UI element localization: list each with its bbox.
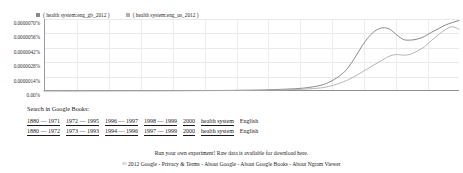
search-table-row: 1880 — 19721973 — 19931994 — 19961997 — … xyxy=(27,127,258,136)
date-range-cell[interactable]: 1996 — 1997 xyxy=(105,117,138,126)
date-range-link[interactable]: 1880 — 1972 xyxy=(27,127,60,136)
search-table-body: 1880 — 19711972 — 19951996 — 19971998 — … xyxy=(27,117,258,136)
date-range-link[interactable]: 1996 — 1997 xyxy=(105,117,138,126)
ngram-chart[interactable] xyxy=(44,19,459,91)
copyright-line: © 2012 Google - Privacy & Terms - About … xyxy=(0,160,463,168)
legend-swatch-icon xyxy=(36,13,40,17)
copyright-text: © 2012 Google - Privacy & Terms - About … xyxy=(122,161,340,167)
date-range-cell[interactable]: 1880 — 1972 xyxy=(27,127,60,136)
query-link[interactable]: health system xyxy=(201,127,234,136)
y-tick-label: 0.0000042% xyxy=(14,49,40,55)
query-link[interactable]: health system xyxy=(201,117,234,126)
y-tick-label: 0.0000056% xyxy=(14,34,40,40)
language-cell: English xyxy=(240,127,258,136)
query-cell[interactable]: health system xyxy=(201,127,234,136)
date-range-cell[interactable]: 2000 xyxy=(183,117,195,126)
chart-line-series-0 xyxy=(44,21,459,91)
date-range-cell[interactable]: 1972 — 1995 xyxy=(66,117,99,126)
experiment-link[interactable]: Run your own experiment! Raw data is ava… xyxy=(155,150,308,156)
search-table-row: 1880 — 19711972 — 19951996 — 19971998 — … xyxy=(27,117,258,126)
date-range-cell[interactable]: 1994 — 1996 xyxy=(105,127,138,136)
y-axis: 0.0000070%0.0000056%0.0000042%0.0000028%… xyxy=(0,19,42,93)
search-in-google-books-section: Search in Google Books: 1880 — 19711972 … xyxy=(27,104,327,137)
date-range-link[interactable]: 1994 — 1996 xyxy=(105,127,138,136)
date-range-cell[interactable]: 2000 xyxy=(183,127,195,136)
query-cell[interactable]: health system xyxy=(201,117,234,126)
date-range-cell[interactable]: 1998 — 1999 xyxy=(144,117,177,126)
date-range-link[interactable]: 1998 — 1999 xyxy=(144,117,177,126)
chart-line-series-1 xyxy=(44,27,459,91)
date-range-link[interactable]: 1997 — 1999 xyxy=(144,127,177,136)
date-range-cell[interactable]: 1880 — 1971 xyxy=(27,117,60,126)
legend-item-eng-gb[interactable]: ( health system:eng_gb_2012 ) xyxy=(36,12,110,19)
y-tick-label: 0.00% xyxy=(27,92,40,98)
y-tick-label: 0.0000070% xyxy=(14,20,40,26)
chart-curves xyxy=(44,19,459,91)
experiment-line: Run your own experiment! Raw data is ava… xyxy=(0,149,463,157)
date-range-link[interactable]: 1973 — 1993 xyxy=(66,127,99,136)
date-range-link[interactable]: 2000 xyxy=(183,127,195,136)
date-range-link[interactable]: 2000 xyxy=(183,117,195,126)
legend-swatch-icon xyxy=(126,13,130,17)
language-cell: English xyxy=(240,117,258,126)
date-range-link[interactable]: 1880 — 1971 xyxy=(27,117,60,126)
search-table: 1880 — 19711972 — 19951996 — 19971998 — … xyxy=(21,116,264,137)
y-tick-label: 0.0000028% xyxy=(14,63,40,69)
y-tick-label: 0.0000014% xyxy=(14,78,40,84)
legend-label-eng-gb: ( health system:eng_gb_2012 ) xyxy=(43,12,110,19)
date-range-cell[interactable]: 1997 — 1999 xyxy=(144,127,177,136)
date-range-link[interactable]: 1972 — 1995 xyxy=(66,117,99,126)
legend-item-eng-us[interactable]: ( health system:eng_us_2012 ) xyxy=(126,12,199,19)
legend-label-eng-us: ( health system:eng_us_2012 ) xyxy=(133,12,199,19)
date-range-cell[interactable]: 1973 — 1993 xyxy=(66,127,99,136)
search-heading: Search in Google Books: xyxy=(27,104,327,113)
